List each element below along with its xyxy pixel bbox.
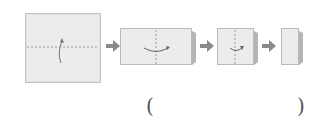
paper-step-2 [120, 28, 192, 65]
arrow-right-icon [262, 40, 276, 52]
arrow-right-icon [106, 40, 120, 52]
fold-guide-step-1 [25, 13, 101, 83]
paper-step-3 [217, 28, 254, 65]
arrow-right-icon [200, 40, 214, 52]
answer-close-paren: ) [297, 94, 305, 118]
paper-step-1 [25, 13, 101, 83]
paper-step-4 [281, 28, 299, 65]
fold-guide-step-3 [217, 28, 261, 68]
answer-blank-area[interactable] [156, 96, 294, 120]
fold-guide-step-2 [120, 28, 200, 68]
answer-open-paren: ( [146, 94, 154, 118]
